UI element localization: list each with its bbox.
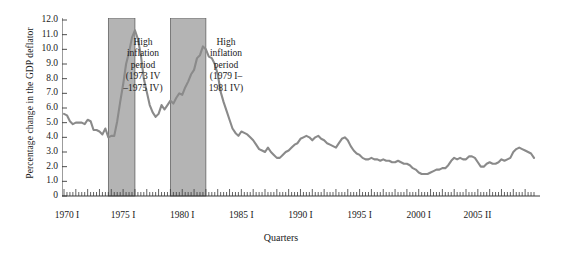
x-axis-tick-label: 1970 I [55, 210, 80, 220]
y-axis-tick-label: 12.0 [41, 15, 58, 25]
x-axis-tick-label: 2005 II [464, 210, 492, 220]
y-axis-tick-label: 6.0 [46, 103, 58, 113]
x-axis-tick-label: 1980 I [170, 210, 195, 220]
annotation-high-inflation-1: High inflation period (1973 IV –1975 IV) [118, 37, 168, 94]
y-axis-tick-label: 0 [53, 191, 58, 201]
y-axis-tick-label: 7.0 [46, 88, 58, 98]
y-axis-tick-label: 10.0 [41, 44, 58, 54]
x-axis-tick-label: 2000 I [406, 210, 431, 220]
y-axis-tick-label: 8.0 [46, 74, 58, 84]
y-axis-tick-label: 1.0 [46, 176, 58, 186]
annotation-high-inflation-2: High inflation period (1979 I– 1981 IV) [201, 37, 251, 94]
x-axis-tick-label: 1975 I [111, 210, 136, 220]
x-axis-tick-label: 1995 I [347, 210, 372, 220]
y-axis-tick-label: 3.0 [46, 147, 58, 157]
chart-figure: Percentage change in the GDP deflator 12… [0, 0, 562, 255]
y-axis-tick-label: 9.0 [46, 59, 58, 69]
x-axis-tick-label: 1990 I [288, 210, 313, 220]
y-axis-tick-label: 5.0 [46, 118, 58, 128]
plot-area: High inflation period (1973 IV –1975 IV)… [62, 18, 540, 204]
y-axis-tick-marks [62, 20, 67, 196]
x-axis-label: Quarters [0, 232, 562, 243]
y-axis-tick-label: 11.0 [42, 30, 58, 40]
y-axis-tick-label: 4.0 [46, 132, 58, 142]
x-axis-tick-label: 1985 I [229, 210, 254, 220]
y-axis-tick-label: 2.0 [46, 162, 58, 172]
x-axis-tick-labels: 1970 I1975 I1980 I1985 I1990 I1995 I2000… [0, 210, 562, 224]
